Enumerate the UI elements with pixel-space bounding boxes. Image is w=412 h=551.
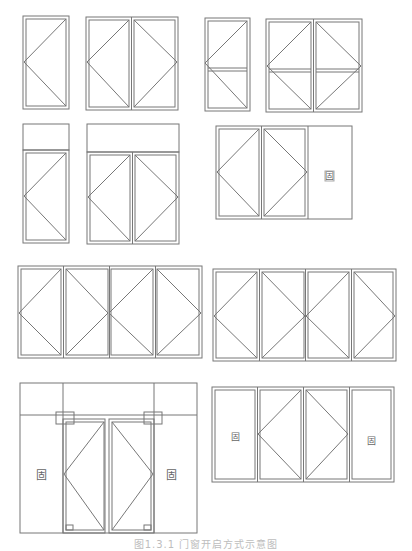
fixed-label-4: 固 [231, 430, 240, 443]
fixed-label-5: 固 [367, 434, 376, 447]
figure-four-panel-casement-b [213, 269, 396, 361]
figure-single-casement-transom-split [205, 18, 250, 111]
figure-double-door-with-transom [87, 124, 179, 244]
fixed-label-1: 固 [325, 169, 334, 182]
figure-caption: 图1.3.1 门窗开启方式示意图 [0, 536, 412, 551]
figure-glass-door-with-fixed-sides [20, 383, 197, 533]
figure-double-casement-transom-split [266, 19, 362, 112]
figure-four-panel-casement-a [18, 266, 202, 358]
fixed-label-3: 固 [166, 466, 177, 482]
fixed-label-2: 固 [36, 466, 47, 482]
figure-double-casement [86, 17, 178, 110]
figure-single-door-with-transom [23, 124, 69, 243]
figure-single-casement [23, 16, 69, 109]
